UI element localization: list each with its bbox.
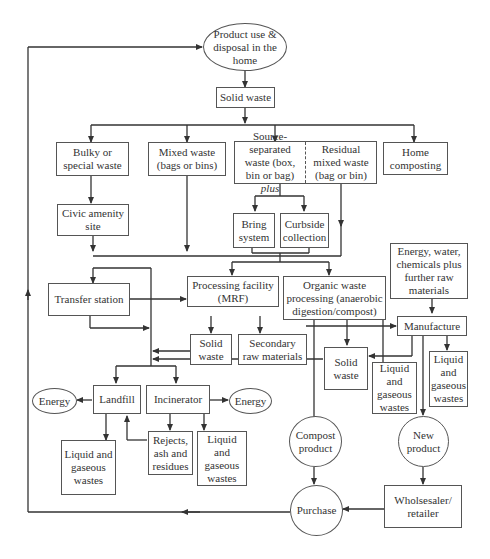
source-separated-node: Source-separated waste (box, bin or bag)… [234,141,377,184]
landfill-liquid-wastes-node: Liquid and gaseous wastes [61,440,116,495]
wholesaler-retailer-node: Wholsesaler/ retailer [384,485,462,528]
solid-waste-node: Solid waste [216,87,275,108]
home-composting-node: Home composting [383,142,448,175]
incinerator-liquid-wastes-node: Liquid and gaseous wastes [197,431,247,486]
purchase-node: Purchase [290,485,343,536]
secondary-raw-materials-node: Secondary raw materials [238,334,307,365]
energy-left-node: Energy [32,388,77,414]
new-product-node: New product [398,416,449,467]
organic-liquid-wastes-node: Liquid and gaseous wastes [372,362,417,414]
manufacture-liquid-wastes-node: Liquid and gaseous wastes [429,351,468,407]
landfill-node: Landfill [93,385,141,414]
mrf-solid-waste-node: Solid waste [190,334,232,365]
civic-amenity-node: Civic amenity site [57,204,129,236]
bring-system-node: Bring system [233,213,275,248]
energy-inputs-node: Energy, water, chemicals plus further ra… [390,243,468,299]
organic-solid-waste-node: Solid waste [324,347,368,390]
residual-mixed-section: Residual mixed waste (bag or bin) [305,142,376,183]
energy-right-node: Energy [229,388,272,414]
source-separated-section: Source-separated waste (box, bin or bag)… [235,129,305,196]
organic-processing-node: Organic waste processing (anaerobic dige… [283,276,386,320]
mixed-waste-node: Mixed waste (bags or bins) [148,142,226,176]
incinerator-node: Incinerator [146,385,210,414]
rejects-ash-residues-node: Rejects, ash and residues [148,431,193,475]
bulky-waste-node: Bulky or special waste [56,142,129,176]
waste-flow-diagram: Product use & disposal in the home Solid… [0,0,490,559]
compost-product-node: Compost product [289,416,342,467]
manufacture-node: Manufacture [397,316,467,336]
mrf-node: Processing facility (MRF) [187,276,279,307]
transfer-station-node: Transfer station [48,283,130,316]
product-use-node: Product use & disposal in the home [203,23,287,71]
curbside-collection-node: Curbside collection [280,213,329,248]
